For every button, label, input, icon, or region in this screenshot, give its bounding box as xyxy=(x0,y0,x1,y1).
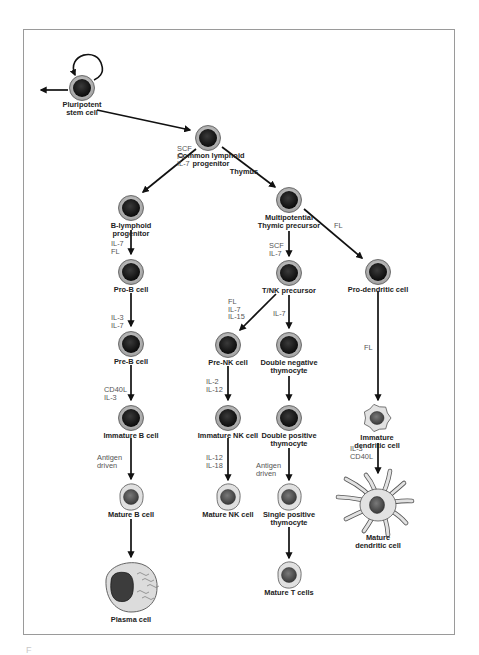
cell-label-preb: Pre-B cell xyxy=(114,357,148,366)
factor-label: IL-7 xyxy=(111,321,124,330)
cell-prob xyxy=(119,260,144,285)
cell-label-blp: progenitor xyxy=(113,229,150,238)
cell-nucleus xyxy=(280,264,298,282)
factor-label: FL xyxy=(364,343,373,352)
factor-label: Thymus xyxy=(230,167,258,176)
cell-immdc xyxy=(364,404,391,431)
arrow-psc-to-clp xyxy=(97,110,190,130)
factor-label: CD40L xyxy=(350,452,373,461)
cell-nucleus xyxy=(73,79,91,97)
factor-label: driven xyxy=(256,469,276,478)
cell-nucleus xyxy=(370,412,384,425)
factor-label: FL xyxy=(111,247,120,256)
cell-nucleus xyxy=(280,191,298,209)
factor-label: FL xyxy=(334,221,343,230)
factor-label: IL-7 xyxy=(273,309,286,318)
cell-dpt xyxy=(277,406,302,431)
cell-blp xyxy=(119,196,144,221)
figure-caption-partial: F xyxy=(26,645,146,655)
cell-label-immb: Immature B cell xyxy=(103,431,158,440)
cell-label-prenk: Pre-NK cell xyxy=(208,358,247,367)
cell-nucleus xyxy=(122,199,140,217)
cell-nucleus xyxy=(369,263,387,281)
cell-nucleus xyxy=(370,497,385,514)
cell-label-matdc: dendritic cell xyxy=(355,541,401,550)
cell-psc xyxy=(70,76,95,101)
cell-label-dpt: thymocyte xyxy=(271,439,308,448)
cell-nucleus xyxy=(221,490,236,505)
arrow-tnk-to-prenk xyxy=(240,294,276,330)
factor-label: IL-15 xyxy=(228,312,245,321)
cell-tnk xyxy=(277,261,302,286)
cell-nucleus xyxy=(111,572,134,601)
cell-immnk xyxy=(216,406,241,431)
factor-label: IL-3 xyxy=(104,393,117,402)
cell-preb xyxy=(119,332,144,357)
cell-nucleus xyxy=(122,335,140,353)
cell-nucleus xyxy=(282,568,297,583)
cell-nucleus xyxy=(280,336,298,354)
factor-label: IL-7 xyxy=(269,249,282,258)
cell-matb xyxy=(120,484,143,510)
cell-label-dnt: thymocyte xyxy=(271,366,308,375)
cell-label-clp: progenitor xyxy=(193,159,230,168)
cell-nucleus xyxy=(280,409,298,427)
factor-label: IL-7 xyxy=(177,159,190,168)
labels-layer: Pluripotentstem cellCommon lymphoidproge… xyxy=(62,100,408,624)
cell-label-spt: thymocyte xyxy=(271,518,308,527)
cell-label-psc: stem cell xyxy=(66,108,98,117)
differentiation-diagram: Pluripotentstem cellCommon lymphoidproge… xyxy=(0,0,479,655)
cell-nucleus xyxy=(219,336,237,354)
cell-label-matb: Mature B cell xyxy=(108,510,154,519)
factor-label: IL-12 xyxy=(206,385,223,394)
cell-label-tnk: T/NK precursor xyxy=(262,286,316,295)
cell-nucleus xyxy=(219,409,237,427)
cell-spt xyxy=(278,484,301,510)
cell-matdc xyxy=(338,471,412,535)
factor-label: IL-18 xyxy=(206,461,223,470)
cell-nucleus xyxy=(122,409,140,427)
cell-nucleus xyxy=(122,263,140,281)
cell-nucleus xyxy=(199,129,217,147)
cell-prodc xyxy=(366,260,391,285)
cell-dnt xyxy=(277,333,302,358)
cell-label-immnk: Immature NK cell xyxy=(198,431,258,440)
cell-matnk xyxy=(217,484,240,510)
cell-immb xyxy=(119,406,144,431)
cell-label-plasma: Plasma cell xyxy=(111,615,151,624)
cell-nucleus xyxy=(282,490,297,505)
cell-matt xyxy=(278,562,301,588)
cell-clp xyxy=(196,126,221,151)
cell-plasma xyxy=(106,563,159,612)
cell-nucleus xyxy=(124,490,139,505)
cell-label-mtp: Thymic precursor xyxy=(258,221,321,230)
cell-label-prodc: Pro-dendritic cell xyxy=(348,285,408,294)
cell-label-matnk: Mature NK cell xyxy=(202,510,253,519)
cell-mtp xyxy=(277,188,302,213)
factor-label: driven xyxy=(97,461,117,470)
cell-prenk xyxy=(216,333,241,358)
cell-label-matt: Mature T cells xyxy=(264,588,313,597)
cell-label-prob: Pro-B cell xyxy=(114,285,149,294)
